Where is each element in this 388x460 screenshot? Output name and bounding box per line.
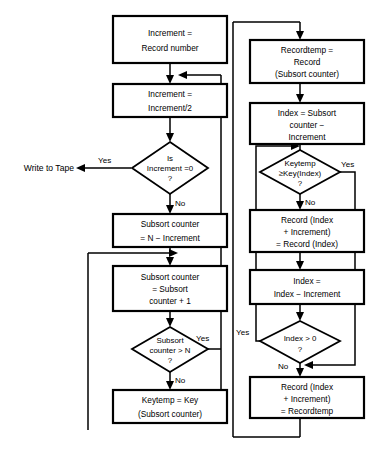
process-index-decrement-line-1: Index − Increment bbox=[274, 289, 341, 299]
decision-index-gt-zero: Index > 0 ? bbox=[260, 321, 340, 363]
terminal-write-to-tape: Write to Tape bbox=[24, 163, 75, 173]
process-subsort-increment: Subsort counter = Subsort counter + 1 bbox=[113, 266, 227, 311]
process-increment-init-line-1: Record number bbox=[141, 43, 198, 53]
process-subsort-increment-line-1: = Subsort bbox=[152, 284, 188, 294]
process-subsort-increment-line-2: counter + 1 bbox=[149, 296, 191, 306]
process-index-decrement-line-0: Index = bbox=[293, 276, 321, 286]
arrowhead-init-to-half bbox=[166, 75, 174, 84]
process-subsort-increment-line-0: Subsort counter bbox=[141, 272, 200, 282]
arrowhead-gtzero-no-to-store bbox=[296, 368, 304, 377]
process-recordtemp-assign-line-2: (Subsort counter) bbox=[275, 69, 339, 79]
decision-subsort-gt-n-line-1: counter > N bbox=[149, 346, 190, 355]
flowchart-canvas: Write to Tape Increment = Record number … bbox=[0, 0, 388, 460]
process-record-store: Record (Index + Increment) = Recordtemp bbox=[250, 377, 364, 418]
arrowhead-subsort-init-to-inc bbox=[166, 257, 174, 266]
process-subsort-init: Subsort counter = N − Increment bbox=[113, 214, 227, 247]
process-record-store-line-2: = Recordtemp bbox=[281, 406, 334, 416]
process-index-assign: Index = Subsort counter − Increment bbox=[250, 103, 364, 144]
process-recordtemp-assign: Recordtemp = Record (Subsort counter) bbox=[250, 40, 364, 83]
process-record-store-line-0: Record (Index bbox=[281, 382, 334, 392]
process-increment-half-line-1: Increment/2 bbox=[148, 103, 192, 113]
arrowhead-into-recordtemp bbox=[296, 31, 304, 40]
flowchart-svg: Write to Tape Increment = Record number … bbox=[0, 0, 388, 460]
label-subsort-gt-n-yes: Yes bbox=[196, 334, 209, 343]
process-subsort-init-line-1: = N − Increment bbox=[140, 233, 200, 243]
process-record-shift-line-0: Record (Index bbox=[281, 215, 334, 225]
decision-keytemp-compare-line-2: ? bbox=[298, 179, 303, 188]
decision-index-gt-zero-line-0: Index > 0 bbox=[284, 334, 317, 343]
process-index-decrement: Index = Index − Increment bbox=[250, 270, 364, 304]
decision-increment-zero-line-1: Increment =0 bbox=[147, 164, 194, 173]
decision-subsort-gt-n-line-0: Subsort bbox=[156, 336, 184, 345]
arrowhead-half-to-decision bbox=[166, 133, 174, 142]
process-recordtemp-assign-line-1: Record bbox=[294, 57, 321, 67]
decision-increment-zero: Is Increment =0 ? bbox=[132, 142, 208, 194]
label-increment-zero-no: No bbox=[175, 199, 186, 208]
label-keytemp-compare-yes: Yes bbox=[341, 160, 354, 169]
arrowhead-no-to-subsort-init bbox=[166, 205, 174, 214]
label-keytemp-compare-no: No bbox=[305, 198, 316, 207]
arrowhead-recordtemp-to-index bbox=[296, 94, 304, 103]
process-recordtemp-assign-line-0: Recordtemp = bbox=[281, 45, 333, 55]
arrowhead-keycmp-no-to-shift bbox=[296, 201, 304, 210]
decision-keytemp-compare-line-0: Keytemp bbox=[284, 159, 316, 168]
arrowhead-decrement-to-gtzero bbox=[296, 312, 304, 321]
process-increment-init: Increment = Record number bbox=[113, 16, 227, 63]
label-index-gt-zero-no: No bbox=[278, 362, 289, 371]
process-record-store-line-1: + Increment) bbox=[284, 394, 331, 404]
decision-keytemp-compare: Keytemp ≥Key(Index) ? bbox=[260, 150, 340, 194]
process-index-assign-line-2: Increment bbox=[289, 132, 327, 142]
process-index-assign-line-0: Index = Subsort bbox=[278, 108, 337, 118]
arrowhead-keycmp-yes-merge bbox=[304, 361, 313, 369]
process-keytemp-assign-line-0: Keytemp = Key bbox=[142, 395, 199, 405]
label-subsort-gt-n-no: No bbox=[175, 376, 186, 385]
arrowhead-write-tape bbox=[76, 164, 85, 172]
process-keytemp-assign: Keytemp = Key (Subsort counter) bbox=[113, 390, 227, 423]
decision-index-gt-zero-line-1: ? bbox=[298, 345, 303, 354]
decision-increment-zero-line-2: ? bbox=[168, 174, 173, 183]
arrowhead-subsort-inc-to-decision bbox=[166, 318, 174, 327]
process-increment-half-line-0: Increment = bbox=[148, 89, 192, 99]
process-keytemp-assign-line-1: (Subsort counter) bbox=[138, 409, 202, 419]
process-record-shift: Record (Index + Increment) = Record (Ind… bbox=[250, 210, 364, 252]
process-increment-init-line-0: Increment = bbox=[148, 28, 192, 38]
arrowhead-inner-return bbox=[178, 71, 187, 79]
process-record-shift-line-2: = Record (Index) bbox=[276, 239, 338, 249]
process-record-shift-line-1: + Increment) bbox=[284, 227, 331, 237]
process-index-assign-line-1: counter − bbox=[290, 120, 325, 130]
arrowhead-subsort-no-to-keytemp bbox=[166, 381, 174, 390]
decision-keytemp-compare-line-1: ≥Key(Index) bbox=[279, 169, 322, 178]
process-increment-half: Increment = Increment/2 bbox=[113, 84, 227, 117]
decision-subsort-gt-n-line-2: ? bbox=[168, 356, 173, 365]
arrowhead-shift-to-decrement bbox=[296, 261, 304, 270]
decision-increment-zero-line-0: Is bbox=[167, 154, 173, 163]
label-index-gt-zero-yes: Yes bbox=[236, 328, 249, 337]
label-increment-zero-yes: Yes bbox=[98, 156, 111, 165]
process-subsort-init-line-0: Subsort counter bbox=[141, 219, 200, 229]
